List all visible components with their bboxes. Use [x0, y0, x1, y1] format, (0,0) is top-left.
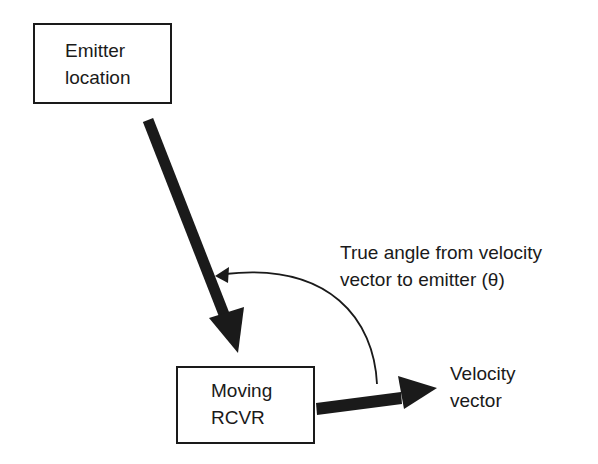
emitter-label-line2: location	[65, 64, 131, 91]
emitter-location-box: Emitter location	[33, 23, 172, 104]
receiver-label-line1: Moving	[211, 377, 272, 404]
emitter-label: Emitter location	[65, 37, 131, 91]
receiver-label-line2: RCVR	[211, 404, 272, 431]
receiver-label: Moving RCVR	[211, 377, 272, 431]
velocity-label-line2: vector	[450, 387, 515, 414]
angle-label-line2: vector to emitter (θ)	[340, 266, 542, 293]
angle-label-line1: True angle from velocity	[340, 239, 542, 266]
angle-label: True angle from velocity vector to emitt…	[340, 239, 542, 293]
velocity-label: Velocity vector	[450, 360, 515, 414]
velocity-label-line1: Velocity	[450, 360, 515, 387]
moving-receiver-box: Moving RCVR	[176, 366, 315, 444]
emitter-label-line1: Emitter	[65, 37, 131, 64]
emitter-to-receiver-arrow	[148, 120, 244, 353]
